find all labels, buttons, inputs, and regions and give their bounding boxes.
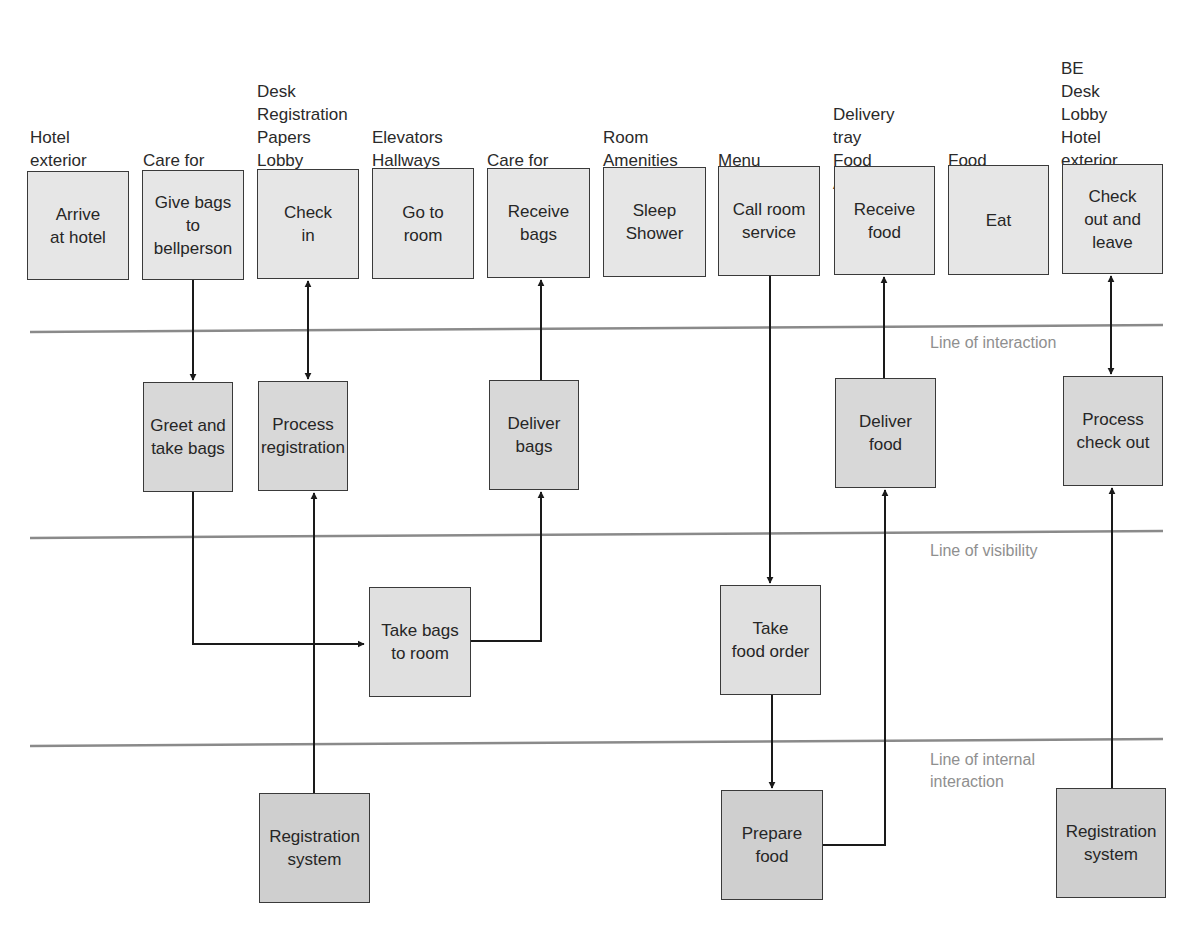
process-box-registration-system-1: Registration system bbox=[259, 793, 370, 903]
process-box-label: Check out and leave bbox=[1084, 185, 1141, 254]
process-box-label: Deliver bags bbox=[508, 412, 561, 458]
process-box-give-bags: Give bags to bellperson bbox=[142, 170, 244, 280]
line-of-internal-interaction bbox=[30, 739, 1163, 746]
process-box-receive-bags: Receive bags bbox=[487, 168, 590, 278]
process-box-label: Take food order bbox=[732, 617, 810, 663]
process-box-label: Give bags to bellperson bbox=[154, 191, 232, 260]
line-of-interaction-label: Line of interaction bbox=[930, 332, 1056, 354]
process-box-label: Greet and take bags bbox=[150, 414, 226, 460]
process-box-arrive: Arrive at hotel bbox=[27, 171, 129, 280]
process-box-take-food-order: Take food order bbox=[720, 585, 821, 695]
process-box-deliver-food: Deliver food bbox=[835, 378, 936, 488]
process-box-process-registration: Process registration bbox=[258, 381, 348, 491]
process-box-check-out: Check out and leave bbox=[1062, 164, 1163, 274]
process-box-label: Arrive at hotel bbox=[50, 203, 106, 249]
arrow-greet-to-take-bags-to-room bbox=[193, 492, 364, 644]
process-box-label: Take bags to room bbox=[381, 619, 459, 665]
line-of-visibility-label: Line of visibility bbox=[930, 540, 1038, 562]
process-box-label: Process registration bbox=[261, 413, 345, 459]
line-of-internal-interaction-label: Line of internal interaction bbox=[930, 749, 1035, 793]
process-box-label: Process check out bbox=[1077, 408, 1150, 454]
process-box-eat: Eat bbox=[948, 165, 1049, 275]
process-box-label: Eat bbox=[986, 209, 1012, 232]
process-box-greet: Greet and take bags bbox=[143, 382, 233, 492]
process-box-registration-system-2: Registration system bbox=[1056, 788, 1166, 898]
service-blueprint-diagram: Hotel exterior ParkingCare for bagsDesk … bbox=[0, 0, 1191, 929]
process-box-label: Sleep Shower bbox=[626, 199, 684, 245]
process-box-label: Go to room bbox=[402, 201, 444, 247]
process-box-label: Prepare food bbox=[742, 822, 802, 868]
process-box-label: Call room service bbox=[733, 198, 806, 244]
line-of-visibility bbox=[30, 531, 1163, 538]
arrow-prepare-food-to-deliver-food bbox=[823, 490, 885, 845]
process-box-go-to-room: Go to room bbox=[372, 168, 474, 279]
process-box-label: Check in bbox=[284, 201, 332, 247]
process-box-check-in: Check in bbox=[257, 169, 359, 279]
line-of-interaction bbox=[30, 325, 1163, 332]
process-box-receive-food: Receive food bbox=[834, 166, 935, 275]
process-box-label: Registration system bbox=[1066, 820, 1157, 866]
process-box-deliver-bags: Deliver bags bbox=[489, 380, 579, 490]
process-box-label: Registration system bbox=[269, 825, 360, 871]
process-box-label: Deliver food bbox=[859, 410, 912, 456]
process-box-take-bags-to-room: Take bags to room bbox=[369, 587, 471, 697]
arrow-take-bags-to-room-to-deliver-bags bbox=[471, 492, 541, 641]
process-box-label: Receive food bbox=[854, 198, 915, 244]
process-box-call-room-service: Call room service bbox=[718, 166, 820, 276]
process-box-label: Receive bags bbox=[508, 200, 569, 246]
process-box-sleep-shower: Sleep Shower bbox=[603, 167, 706, 277]
process-box-process-checkout: Process check out bbox=[1063, 376, 1163, 486]
process-box-prepare-food: Prepare food bbox=[721, 790, 823, 900]
